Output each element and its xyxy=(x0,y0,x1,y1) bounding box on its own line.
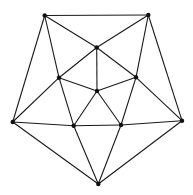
edge-C-LI xyxy=(74,91,97,126)
node-C xyxy=(95,89,99,93)
edge-MR-C xyxy=(97,77,136,91)
node-LI xyxy=(72,124,76,128)
edge-TR-MR xyxy=(136,15,148,77)
node-TC xyxy=(95,45,99,49)
node-MR xyxy=(134,75,138,79)
node-TR xyxy=(146,13,150,17)
node-RI xyxy=(119,123,123,127)
edge-RI-OR xyxy=(121,121,182,125)
node-B xyxy=(96,182,100,186)
graph-diagram xyxy=(0,0,193,195)
edge-MR-RI xyxy=(121,77,136,125)
edge-TR-TC xyxy=(97,15,149,48)
edge-C-RI xyxy=(97,91,121,125)
node-TL xyxy=(43,13,47,17)
edge-ML-LI xyxy=(59,78,74,126)
edge-LI-RI xyxy=(74,125,121,126)
edge-TC-MR xyxy=(97,48,136,78)
edge-ML-C xyxy=(59,78,97,91)
edge-TC-ML xyxy=(59,48,97,78)
edge-TL-TC xyxy=(45,16,97,48)
node-ML xyxy=(57,76,61,80)
edge-TL-TR xyxy=(45,15,149,16)
edges-group xyxy=(13,15,182,184)
edge-OL-LI xyxy=(13,122,74,126)
edge-TL-ML xyxy=(45,16,59,78)
node-OL xyxy=(11,120,15,124)
node-OR xyxy=(180,119,184,123)
